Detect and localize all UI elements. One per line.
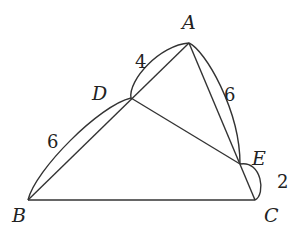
segment-de (131, 98, 240, 164)
label-e: E (251, 147, 266, 169)
label-b: B (11, 204, 26, 226)
triangle-diagram: A B C D E 4 6 6 2 (0, 0, 296, 234)
segment-ac (189, 43, 255, 200)
arc-ec (240, 164, 261, 200)
segment-ab (28, 43, 189, 200)
label-c: C (264, 204, 279, 226)
label-d: D (91, 82, 107, 104)
length-ec: 2 (277, 171, 288, 192)
length-bd: 6 (47, 131, 58, 152)
length-ad: 4 (135, 51, 146, 72)
label-a: A (180, 11, 196, 33)
length-ae: 6 (224, 84, 235, 105)
